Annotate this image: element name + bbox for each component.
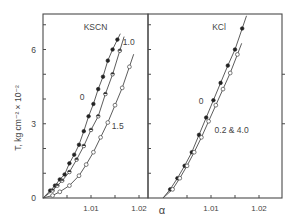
figure: 1.011.02036KSCN01.01.51.011.02KCl00.2 & … bbox=[0, 0, 296, 224]
data-point bbox=[200, 135, 204, 139]
y-tick-label: 6 bbox=[31, 45, 36, 55]
series-line bbox=[43, 34, 120, 198]
data-point bbox=[228, 71, 232, 75]
panel-title: KCl bbox=[212, 22, 226, 32]
data-point bbox=[101, 75, 105, 79]
data-point bbox=[178, 176, 182, 180]
series-label: 1.0 bbox=[123, 37, 135, 47]
data-point bbox=[77, 143, 81, 147]
y-tick-label: 3 bbox=[31, 119, 36, 129]
x-tick-label: 1.02 bbox=[251, 204, 267, 213]
data-point bbox=[99, 135, 103, 139]
data-point bbox=[192, 150, 196, 154]
data-point bbox=[214, 103, 218, 107]
data-point bbox=[106, 121, 110, 125]
panel-kscn: 1.011.02036KSCN01.01.5 bbox=[31, 14, 148, 213]
series-label: 0.2 & 4.0 bbox=[215, 125, 249, 135]
series-label: 1.5 bbox=[112, 121, 124, 131]
data-point bbox=[68, 184, 72, 188]
data-point bbox=[113, 103, 117, 107]
data-point bbox=[120, 86, 124, 90]
series-line bbox=[163, 43, 242, 198]
data-point bbox=[219, 81, 223, 85]
series-line bbox=[163, 16, 247, 198]
panel-title: KSCN bbox=[84, 22, 108, 32]
panel-kcl: 1.011.02KCl00.2 & 4.0 bbox=[148, 14, 285, 213]
series-0-2-4-0: 0.2 & 4.0 bbox=[163, 43, 249, 198]
data-point bbox=[106, 59, 110, 63]
data-point bbox=[127, 65, 131, 69]
data-point bbox=[68, 162, 72, 166]
data-point bbox=[58, 190, 62, 194]
data-point bbox=[236, 53, 240, 57]
data-point bbox=[233, 48, 237, 52]
series-label: 0 bbox=[199, 96, 204, 106]
data-point bbox=[77, 174, 81, 178]
data-point bbox=[92, 150, 96, 154]
data-point bbox=[212, 98, 216, 102]
data-point bbox=[111, 48, 115, 52]
y-tick-label: 0 bbox=[31, 193, 36, 203]
data-point bbox=[72, 153, 76, 157]
data-point bbox=[82, 129, 86, 133]
x-tick-label: 1.01 bbox=[203, 204, 219, 213]
data-point bbox=[84, 163, 88, 167]
data-point bbox=[207, 119, 211, 123]
data-point bbox=[87, 115, 91, 119]
data-point bbox=[171, 187, 175, 191]
series-1-5: 1.5 bbox=[43, 54, 134, 198]
data-point bbox=[92, 102, 96, 106]
y-axis-label: T, kg cm⁻² × 10⁻² bbox=[13, 85, 23, 151]
series-line bbox=[43, 37, 124, 198]
x-axis-label: α bbox=[159, 204, 166, 216]
data-point bbox=[221, 87, 225, 91]
data-point bbox=[204, 116, 208, 120]
data-point bbox=[51, 194, 55, 198]
data-point bbox=[96, 87, 100, 91]
x-tick-label: 1.01 bbox=[83, 204, 99, 213]
x-tick-label: 1.02 bbox=[131, 204, 147, 213]
series-0: 0 bbox=[163, 16, 247, 198]
data-point bbox=[116, 38, 120, 42]
series-label: 0 bbox=[80, 92, 85, 102]
data-point bbox=[226, 64, 230, 68]
data-point bbox=[185, 164, 189, 168]
data-point bbox=[240, 27, 244, 31]
series-0: 0 bbox=[43, 34, 120, 198]
